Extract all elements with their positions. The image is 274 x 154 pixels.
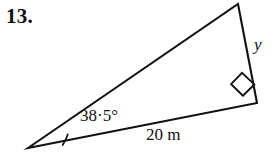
triangle-diagram-svg <box>0 0 274 154</box>
triangle-figure: 13. 38·5° 20 m y <box>0 0 274 154</box>
unknown-side-label: y <box>254 36 262 53</box>
question-number: 13. <box>6 6 33 27</box>
base-length-label: 20 m <box>146 126 180 143</box>
triangle-outline <box>28 4 257 148</box>
angle-label: 38·5° <box>80 107 118 124</box>
